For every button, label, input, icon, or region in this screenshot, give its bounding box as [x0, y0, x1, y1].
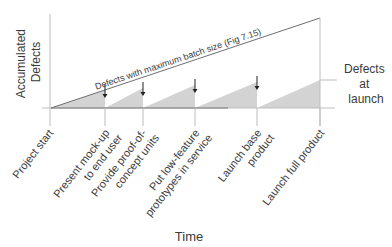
milestone-labels: Project startPresent mock-upto end userP… — [10, 123, 327, 218]
y-axis-label-line-1: Accumulated — [14, 29, 28, 98]
x-axis-label: Time — [175, 229, 203, 244]
milestone-label-project-start: Project start — [10, 127, 56, 181]
defect-accumulation-diagram: Accumulated Defects Defects with maximum… — [0, 0, 392, 247]
side-label-line-3: launch — [348, 92, 383, 106]
defects-at-launch-label: Defects at launch — [344, 62, 388, 106]
y-axis-label: Accumulated Defects — [14, 26, 43, 99]
max-batch-line-label: Defects with maximum batch size (Fig 7.1… — [94, 27, 263, 92]
defect-area-segment — [195, 82, 257, 108]
y-axis-label-line-2: Defects — [29, 42, 43, 83]
milestone-label-line: Project start — [10, 127, 56, 181]
diagram-lines — [42, 14, 337, 126]
defect-area-segment — [143, 85, 195, 108]
milestone-label-launch-base: Launch baseproduct — [215, 124, 276, 192]
side-label-line-1: Defects — [344, 62, 385, 76]
defect-area-segment — [105, 88, 143, 108]
side-label-line-2: at — [359, 77, 370, 91]
defect-area-segment — [257, 80, 320, 108]
